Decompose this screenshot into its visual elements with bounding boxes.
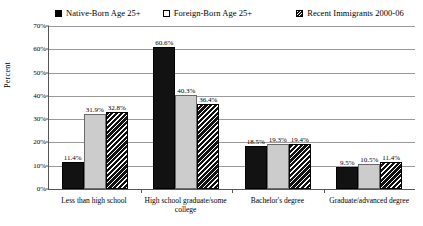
chart-legend: Native-Born Age 25+ Foreign-Born Age 25+… [55, 6, 415, 20]
bar-foreign-born-less-than-high-school[interactable]: 31.9% [84, 114, 106, 189]
legend-label-foreign-born: Foreign-Born Age 25+ [174, 9, 253, 18]
bar-group-bachelors-degree: 18.5% 19.3% 19.4% [232, 26, 324, 189]
xtick-mark-1 [141, 189, 142, 193]
bar-value-native-born-high-school-graduate: 60.6% [155, 40, 173, 47]
xtick-mark-3 [324, 189, 325, 193]
legend-label-recent-immigrants: Recent Immigrants 2000-06 [307, 9, 404, 18]
bar-value-foreign-born-less-than-high-school: 31.9% [86, 107, 104, 114]
y-axis-title: Percent [4, 62, 12, 88]
bar-value-recent-immigrants-less-than-high-school: 32.8% [108, 105, 126, 112]
bar-group-graduate-advanced-degree: 9.5% 10.5% 11.4% [324, 26, 416, 189]
bar-value-foreign-born-graduate-advanced-degree: 10.5% [360, 157, 378, 164]
xtick-mark-2 [232, 189, 233, 193]
ytick-label-70: 70% [33, 23, 46, 30]
bar-value-foreign-born-bachelors-degree: 19.3% [269, 137, 287, 144]
bar-group-high-school-graduate: 60.6% 40.3% 36.4% [141, 26, 233, 189]
bar-value-native-born-bachelors-degree: 18.5% [247, 139, 265, 146]
ytick-label-30: 30% [33, 116, 46, 123]
bar-chart: Native-Born Age 25+ Foreign-Born Age 25+… [0, 0, 423, 226]
legend-item-recent-immigrants: Recent Immigrants 2000-06 [296, 9, 404, 18]
legend-label-native-born: Native-Born Age 25+ [66, 9, 141, 18]
ytick-label-40: 40% [33, 92, 46, 99]
bar-value-recent-immigrants-graduate-advanced-degree: 11.4% [382, 155, 400, 162]
bar-recent-immigrants-high-school-graduate[interactable]: 36.4% [197, 104, 219, 189]
ytick-label-10: 10% [33, 162, 46, 169]
bar-value-native-born-graduate-advanced-degree: 9.5% [340, 160, 355, 167]
bar-group-less-than-high-school: 11.4% 31.9% 32.8% [49, 26, 141, 189]
x-axis-label-graduate-advanced-degree: Graduate/advanced degree [323, 196, 415, 214]
ytick-label-20: 20% [33, 139, 46, 146]
legend-swatch-recent-immigrants-icon [296, 10, 303, 17]
legend-swatch-native-born-icon [55, 10, 62, 17]
bar-groups: 11.4% 31.9% 32.8% 60.6% [49, 26, 415, 189]
bar-native-born-bachelors-degree[interactable]: 18.5% [245, 146, 267, 189]
ytick-label-0: 0% [37, 186, 46, 193]
bar-value-recent-immigrants-bachelors-degree: 19.4% [291, 137, 309, 144]
bar-recent-immigrants-bachelors-degree[interactable]: 19.4% [289, 144, 311, 189]
ytick-label-60: 60% [33, 46, 46, 53]
x-axis-label-bachelors-degree: Bachelor's degree [232, 196, 324, 214]
x-axis-category-labels: Less than high school High school gradua… [48, 196, 415, 214]
bar-native-born-graduate-advanced-degree[interactable]: 9.5% [336, 167, 358, 189]
bar-recent-immigrants-less-than-high-school[interactable]: 32.8% [106, 112, 128, 189]
plot-area: 70% 60% 50% 40% 30% 20% 10% 0% 11.4% [48, 26, 415, 190]
bar-recent-immigrants-graduate-advanced-degree[interactable]: 11.4% [380, 162, 402, 189]
bar-foreign-born-high-school-graduate[interactable]: 40.3% [175, 95, 197, 189]
bar-value-foreign-born-high-school-graduate: 40.3% [177, 88, 195, 95]
bar-foreign-born-graduate-advanced-degree[interactable]: 10.5% [358, 164, 380, 189]
x-axis-label-less-than-high-school: Less than high school [48, 196, 140, 214]
bar-native-born-high-school-graduate[interactable]: 60.6% [153, 47, 175, 189]
bar-native-born-less-than-high-school[interactable]: 11.4% [62, 162, 84, 189]
bar-foreign-born-bachelors-degree[interactable]: 19.3% [267, 144, 289, 189]
bar-value-native-born-less-than-high-school: 11.4% [64, 155, 82, 162]
x-axis-label-high-school-graduate: High school graduate/some college [140, 196, 232, 214]
legend-item-foreign-born: Foreign-Born Age 25+ [163, 9, 253, 18]
bar-value-recent-immigrants-high-school-graduate: 36.4% [199, 97, 217, 104]
ytick-label-50: 50% [33, 69, 46, 76]
legend-item-native-born: Native-Born Age 25+ [55, 9, 141, 18]
legend-swatch-foreign-born-icon [163, 10, 170, 17]
